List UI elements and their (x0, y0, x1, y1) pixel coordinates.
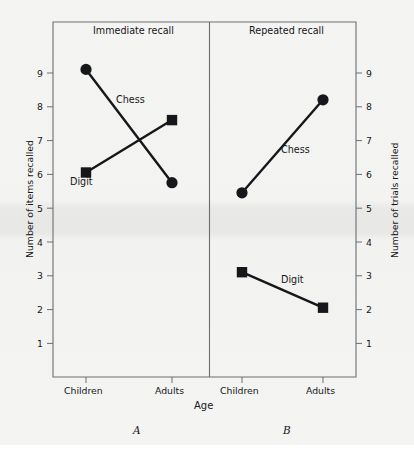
data-point-marker (80, 64, 91, 75)
left-ytick-7: 7 (37, 136, 43, 145)
xtick-a-adults: Adults (155, 386, 184, 395)
data-point-marker (166, 177, 177, 188)
left-ytick-6: 6 (37, 170, 43, 179)
xtick-b-adults: Adults (306, 386, 335, 395)
right-ytick-7: 7 (366, 136, 372, 145)
right-axis-ticks (356, 73, 362, 343)
left-ytick-9: 9 (37, 69, 43, 78)
data-point-marker (317, 94, 328, 105)
data-point-marker (237, 267, 247, 277)
data-point-marker (318, 303, 328, 313)
right-y-axis-title: Number of trials recalled (389, 143, 400, 258)
panel-a-letter: A (133, 424, 141, 436)
figure-container: 9 8 7 6 5 4 3 2 1 9 8 7 6 5 4 3 2 1 Numb… (0, 0, 414, 459)
x-axis-title: Age (194, 401, 213, 411)
right-ytick-6: 6 (366, 170, 372, 179)
right-ytick-1: 1 (366, 339, 372, 348)
left-ytick-3: 3 (37, 271, 43, 280)
panel-b-letter: B (283, 424, 291, 436)
right-ytick-9: 9 (366, 69, 372, 78)
panel-a-title: Immediate recall (93, 26, 174, 36)
left-y-axis-title: Number of items recalled (24, 140, 35, 258)
left-ytick-2: 2 (37, 305, 43, 314)
chart-plot-area (0, 0, 414, 459)
right-ytick-4: 4 (366, 238, 372, 247)
data-point-marker (236, 187, 247, 198)
left-axis-ticks (47, 73, 53, 343)
plot-frame (53, 22, 356, 377)
left-ytick-4: 4 (37, 238, 43, 247)
right-ytick-2: 2 (366, 305, 372, 314)
right-ytick-5: 5 (366, 204, 372, 213)
panel-b-digit-label: Digit (281, 275, 304, 285)
data-point-marker (167, 115, 177, 125)
left-ytick-8: 8 (37, 102, 43, 111)
x-axis-ticks (86, 377, 323, 383)
right-ytick-3: 3 (366, 271, 372, 280)
xtick-b-children: Children (220, 386, 259, 395)
panel-b-title: Repeated recall (249, 26, 324, 36)
left-ytick-5: 5 (37, 204, 43, 213)
left-ytick-1: 1 (37, 339, 43, 348)
right-ytick-8: 8 (366, 102, 372, 111)
xtick-a-children: Children (64, 386, 103, 395)
panel-a-chess-label: Chess (116, 95, 145, 105)
panel-a-digit-label: Digit (70, 177, 93, 187)
panel-b-chess-label: Chess (281, 145, 310, 155)
